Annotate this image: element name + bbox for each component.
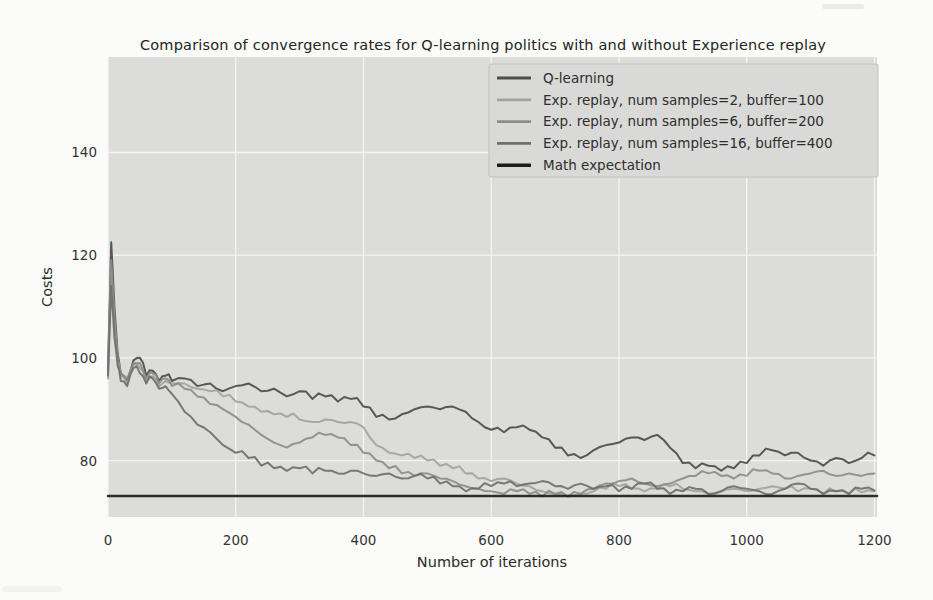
x-tick-label: 800 — [606, 532, 632, 548]
y-tick-label: 80 — [80, 453, 97, 469]
chart-canvas: 020040060080010001200 80100120140 Compar… — [0, 0, 933, 600]
y-tick-label: 100 — [71, 350, 97, 366]
x-axis-label: Number of iterations — [417, 554, 567, 570]
x-tick-labels: 020040060080010001200 — [104, 532, 892, 548]
legend-label-0: Q-learning — [543, 70, 614, 86]
y-tick-label: 120 — [71, 247, 97, 263]
x-tick-label: 600 — [478, 532, 504, 548]
x-tick-label: 200 — [223, 532, 249, 548]
chart-title: Comparison of convergence rates for Q-le… — [140, 37, 826, 53]
y-axis-label: Costs — [39, 267, 55, 307]
legend-label-1: Exp. replay, num samples=2, buffer=100 — [543, 92, 824, 108]
x-tick-label: 0 — [104, 532, 113, 548]
legend-label-4: Math expectation — [543, 157, 661, 173]
figure-page: 020040060080010001200 80100120140 Compar… — [0, 0, 933, 600]
y-tick-label: 140 — [71, 144, 97, 160]
legend-label-3: Exp. replay, num samples=16, buffer=400 — [543, 135, 833, 151]
x-tick-label: 1200 — [857, 532, 891, 548]
y-tick-labels: 80100120140 — [71, 144, 97, 468]
x-tick-label: 400 — [351, 532, 377, 548]
x-tick-label: 1000 — [730, 532, 764, 548]
legend: Q-learningExp. replay, num samples=2, bu… — [489, 64, 878, 177]
legend-label-2: Exp. replay, num samples=6, buffer=200 — [543, 113, 824, 129]
